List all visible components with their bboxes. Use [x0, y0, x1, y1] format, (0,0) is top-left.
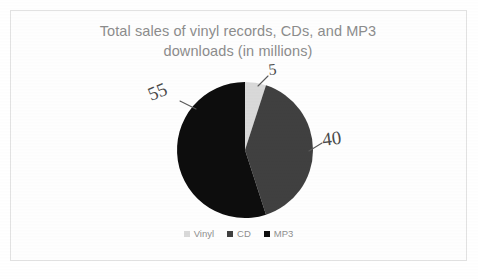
legend-item-cd[interactable]: CD [227, 228, 251, 239]
legend-item-vinyl[interactable]: Vinyl [184, 228, 214, 239]
legend-label-cd: CD [237, 228, 251, 239]
pie-plot-area: 5 40 55 [10, 10, 467, 261]
legend-swatch-mp3-icon [264, 231, 270, 237]
legend-label-vinyl: Vinyl [194, 228, 214, 239]
legend-swatch-vinyl-icon [184, 231, 190, 237]
legend-swatch-cd-icon [227, 231, 233, 237]
pie-slices-svg [10, 10, 467, 261]
pie-chart: Total sales of vinyl records, CDs, and M… [10, 10, 467, 261]
slide-canvas: Total sales of vinyl records, CDs, and M… [0, 0, 478, 279]
legend-label-mp3: MP3 [274, 228, 294, 239]
legend-item-mp3[interactable]: MP3 [264, 228, 294, 239]
chart-legend: Vinyl CD MP3 [10, 228, 467, 239]
